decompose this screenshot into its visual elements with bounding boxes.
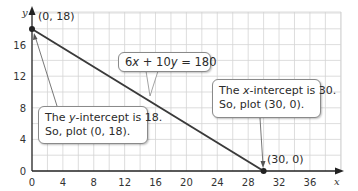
y-tick-label: 12 <box>13 71 26 82</box>
point-30-0 <box>261 168 267 174</box>
y-tick-label: 8 <box>20 103 26 114</box>
equation-rhs: = 180 <box>178 55 217 69</box>
x-intercept-pointer <box>260 118 263 165</box>
y-tick-label: 16 <box>13 40 26 51</box>
y-axis-label: y <box>21 7 28 18</box>
point-label-30-0: (30, 0) <box>267 153 304 166</box>
x-intercept-callout-line2: So, plot (30, 0). <box>219 98 314 112</box>
y-tick-label: 4 <box>20 134 26 145</box>
x-tick-label: 24 <box>211 177 224 188</box>
x-tick-label: 20 <box>180 177 193 188</box>
y-intercept-callout-line2: So, plot (0, 18). <box>45 125 141 139</box>
y-intercept-pointer <box>35 36 57 106</box>
equation-coef-b: + 10 <box>139 55 171 69</box>
y-intercept-arrowhead-icon <box>33 33 38 40</box>
y-intercept-callout-line1: The y-intercept is 18. <box>45 111 141 125</box>
x-axis-label: x <box>334 176 340 187</box>
x-tick-label: 16 <box>149 177 162 188</box>
point-label-0-18: (0, 18) <box>38 10 75 23</box>
y-axis-arrow-icon <box>29 6 36 15</box>
x-tick-label: 0 <box>29 177 35 188</box>
x-tick-label: 4 <box>60 177 66 188</box>
x-tick-labels: 04812162024283236 <box>29 177 316 188</box>
x-intercept-callout-line1: The x-intercept is 30. <box>219 84 314 98</box>
y-intercept-callout: The y-intercept is 18. So, plot (0, 18). <box>38 106 148 144</box>
equation-var-y: y <box>171 55 178 69</box>
equation-callout: 6x + 10y = 180 <box>118 52 211 72</box>
x-axis-arrow-icon <box>335 168 344 175</box>
x-tick-label: 32 <box>273 177 286 188</box>
x-tick-label: 36 <box>304 177 317 188</box>
x-intercept-arrowhead-icon <box>261 161 266 168</box>
x-intercept-callout: The x-intercept is 30. So, plot (30, 0). <box>212 79 321 118</box>
x-tick-label: 12 <box>118 177 131 188</box>
x-tick-label: 8 <box>91 177 97 188</box>
y-tick-label: 0 <box>20 166 26 177</box>
y-tick-labels: 0481216 <box>13 40 26 177</box>
point-0-18 <box>29 26 35 32</box>
x-tick-label: 28 <box>242 177 255 188</box>
